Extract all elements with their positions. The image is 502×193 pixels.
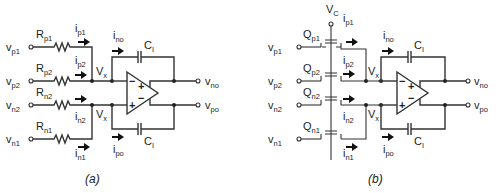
transistor-label: Qp2 <box>303 62 320 77</box>
feedback-current-label: ipo <box>383 143 394 158</box>
current-arrow-icon <box>112 47 124 55</box>
panel-a: vp1 Rp1 ip1 vp2 Rp2 ip2 vn2 Rn2 in2 <box>6 22 219 186</box>
circuit-figure: vp1 Rp1 ip1 vp2 Rp2 ip2 vn2 Rn2 in2 <box>0 0 502 193</box>
input-terminal <box>29 103 33 107</box>
current-arrow-icon <box>382 133 394 141</box>
opamp-sign: − <box>399 75 405 87</box>
capacitor-label: CI <box>414 39 424 54</box>
input-label: vn2 <box>268 99 282 114</box>
summing-node-label: Vx <box>96 108 107 123</box>
current-arrow-icon <box>343 95 355 103</box>
junction-dot <box>172 103 176 107</box>
transistor-qn1: vn1 Qn1 in1 <box>268 105 366 162</box>
panel-caption: (a) <box>85 172 100 186</box>
input-label: vn1 <box>6 133 20 148</box>
input-terminal <box>297 103 301 107</box>
transistor-qn2: vn2 Qn2 in2 <box>268 86 378 125</box>
input-terminal <box>297 45 301 49</box>
output-terminal <box>196 79 200 83</box>
resistor-label: Rp1 <box>36 28 52 43</box>
input-terminal <box>297 79 301 83</box>
junction-dot <box>90 103 94 107</box>
resistor-label: Rn1 <box>36 120 52 135</box>
feedback-current-label: ino <box>113 29 124 44</box>
current-label: ip2 <box>75 54 86 69</box>
current-label: ip1 <box>343 12 354 27</box>
output-label: vno <box>205 75 219 90</box>
junction-dot <box>364 79 368 83</box>
current-arrow-icon <box>343 70 355 78</box>
current-arrow-icon <box>346 38 358 46</box>
current-label: in2 <box>343 110 354 125</box>
input-label: vp1 <box>6 41 20 56</box>
resistor-label: Rn2 <box>36 86 52 101</box>
current-arrow-icon <box>78 143 90 151</box>
opamp-sign: − <box>129 75 135 87</box>
capacitor-label: CI <box>414 135 424 150</box>
capacitor-icon <box>408 51 411 63</box>
feedback-current-label: ino <box>383 29 394 44</box>
panel-b: VC vp1 Qp1 ip1 vp2 Qp2 ip2 <box>268 3 488 186</box>
opamp-sign: + <box>138 80 144 92</box>
opamp-sign: − <box>138 92 144 104</box>
junction-dot <box>90 79 94 83</box>
feedback-current-label: ipo <box>113 143 124 158</box>
input-label: vp2 <box>268 75 282 90</box>
junction-dot <box>443 79 447 83</box>
current-arrow-icon <box>112 133 124 141</box>
current-label: ip2 <box>343 54 354 69</box>
input-terminal <box>29 45 33 49</box>
current-arrow-icon <box>75 71 87 79</box>
resistor-label: Rp2 <box>36 62 52 77</box>
current-arrow-icon <box>75 95 87 103</box>
output-label: vpo <box>474 99 488 114</box>
opamp-sign: + <box>399 99 405 111</box>
supply-label: VC <box>326 3 339 18</box>
current-arrow-icon <box>78 38 90 46</box>
current-label: ip1 <box>75 22 86 37</box>
capacitor-label: CI <box>144 39 154 54</box>
junction-dot <box>443 103 447 107</box>
input-label: vn1 <box>268 133 282 148</box>
capacitor-icon <box>138 51 141 63</box>
input-terminal <box>29 137 33 141</box>
input-terminal <box>29 79 33 83</box>
junction-dot <box>364 103 368 107</box>
output-terminal <box>466 103 470 107</box>
current-arrow-icon <box>346 143 358 151</box>
capacitor-label: CI <box>144 135 154 150</box>
summing-node-label: Vx <box>96 65 107 80</box>
capacitor-icon <box>408 123 411 135</box>
summing-node-label: Vx <box>368 65 379 80</box>
output-label: vpo <box>205 99 219 114</box>
transistor-label: Qn1 <box>303 120 320 135</box>
input-label: vp1 <box>268 41 282 56</box>
transistor-label: Qp1 <box>303 28 320 43</box>
output-terminal <box>466 79 470 83</box>
junction-dot <box>172 79 176 83</box>
opamp-sign: + <box>129 99 135 111</box>
summing-node-label: Vx <box>368 108 379 123</box>
current-label: in2 <box>75 110 86 125</box>
transistor-label: Qn2 <box>303 86 320 101</box>
output-terminal <box>196 103 200 107</box>
input-label: vp2 <box>6 75 20 90</box>
opamp-sign: + <box>408 80 414 92</box>
input-label: vn2 <box>6 99 20 114</box>
capacitor-icon <box>138 123 141 135</box>
input-terminal <box>297 137 301 141</box>
panel-caption: (b) <box>368 172 383 186</box>
supply-terminal <box>329 22 333 26</box>
opamp-sign: − <box>408 92 414 104</box>
output-label: vno <box>474 75 488 90</box>
transistor-qp2: vp2 Qp2 ip2 <box>268 54 378 90</box>
current-arrow-icon <box>382 47 394 55</box>
